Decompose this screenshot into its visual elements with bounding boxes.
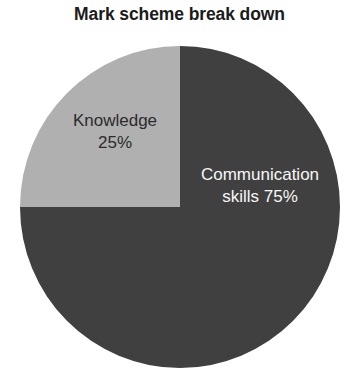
- pie-chart-figure: Mark scheme break down Knowledge 25% Com…: [0, 0, 359, 386]
- pie-chart-graphic: [20, 46, 340, 368]
- pie-slice-knowledge[interactable]: [20, 46, 180, 207]
- chart-title: Mark scheme break down: [0, 4, 359, 25]
- pie-svg: [20, 46, 340, 368]
